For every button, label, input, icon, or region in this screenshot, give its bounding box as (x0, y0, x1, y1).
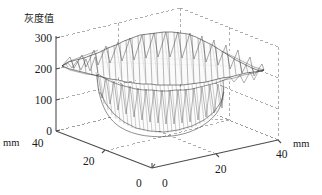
z-tick-label-200: 200 (35, 63, 53, 75)
z-tick-300 (56, 37, 60, 38)
x-tick-40 (278, 140, 281, 143)
z-axis-ticks (56, 37, 60, 131)
mesh-surface (62, 32, 264, 137)
z-tick-label-0: 0 (46, 125, 52, 137)
z-tick-100 (56, 99, 60, 100)
x-tick-label-40: 40 (276, 148, 288, 160)
plot-canvas: 灰度值 300 200 100 0 mm 40 20 0 0 20 40 mm (0, 0, 322, 195)
y-axis-line-left (56, 131, 152, 168)
x-tick-label-0: 0 (162, 177, 168, 189)
horizontal-axis-ticks (102, 140, 281, 168)
y-tick-label-0: 0 (136, 177, 142, 189)
y-tick-20 (102, 150, 105, 153)
x-tick-20 (216, 154, 219, 157)
y-tick-label-40: 40 (32, 137, 44, 149)
z-tick-label-300: 300 (35, 32, 53, 44)
left-axis-unit: mm (3, 137, 19, 148)
y-tick-label-20: 20 (83, 155, 95, 167)
surface-plot-figure: 灰度值 300 200 100 0 mm 40 20 0 0 20 40 mm (0, 0, 322, 195)
x-tick-label-20: 20 (215, 163, 227, 175)
z-tick-label-100: 100 (35, 94, 53, 106)
right-axis-unit: mm (293, 138, 309, 149)
z-tick-200 (56, 68, 60, 69)
z-tick-0 (56, 130, 60, 131)
z-axis-title: 灰度值 (24, 12, 54, 24)
